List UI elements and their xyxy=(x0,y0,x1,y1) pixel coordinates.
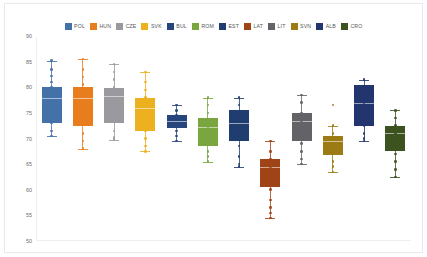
data-point xyxy=(82,83,85,86)
data-point xyxy=(300,112,303,115)
data-point xyxy=(144,96,147,99)
data-point xyxy=(394,168,397,171)
data-point xyxy=(269,165,272,168)
data-point xyxy=(144,119,147,122)
median-line xyxy=(135,108,155,109)
y-tick-label: 60 xyxy=(26,187,32,193)
data-point xyxy=(300,94,303,97)
y-tick-label: 90 xyxy=(26,33,32,39)
y-tick-label: 50 xyxy=(26,238,32,244)
data-point xyxy=(269,173,272,176)
boxplot-lat[interactable] xyxy=(255,36,286,241)
data-point xyxy=(332,132,335,135)
data-point xyxy=(300,135,303,138)
plot-area: 908580757065605550 xyxy=(36,36,411,241)
boxplot-hun[interactable] xyxy=(67,36,98,241)
data-point xyxy=(175,124,178,127)
boxplot-svn[interactable] xyxy=(317,36,348,241)
data-point xyxy=(332,142,335,145)
data-point xyxy=(332,165,335,168)
data-point xyxy=(50,112,53,115)
data-point xyxy=(207,142,210,145)
data-point xyxy=(269,212,272,215)
data-point xyxy=(207,112,210,115)
data-point xyxy=(238,155,241,158)
box-body xyxy=(354,85,374,126)
data-point xyxy=(144,89,147,92)
data-point xyxy=(394,132,397,135)
data-point xyxy=(207,96,210,99)
data-point xyxy=(82,76,85,79)
data-point xyxy=(207,150,210,153)
data-point xyxy=(269,150,272,153)
data-point xyxy=(175,109,178,112)
data-point xyxy=(113,71,116,74)
data-point xyxy=(50,68,53,71)
data-point xyxy=(175,114,178,117)
boxplot-cro[interactable] xyxy=(380,36,411,241)
data-point xyxy=(269,206,272,209)
data-point xyxy=(269,217,272,220)
data-point xyxy=(144,71,147,74)
boxplot-bul[interactable] xyxy=(161,36,192,241)
data-point xyxy=(144,137,147,140)
data-point xyxy=(394,153,397,156)
median-line xyxy=(229,123,249,124)
data-point xyxy=(300,158,303,161)
boxplot-alb[interactable] xyxy=(349,36,380,241)
boxplot-est[interactable] xyxy=(224,36,255,241)
data-point xyxy=(300,127,303,130)
data-point xyxy=(332,104,335,107)
data-point xyxy=(82,101,85,104)
data-point xyxy=(207,127,210,130)
boxplot-rom[interactable] xyxy=(192,36,223,241)
data-point xyxy=(332,160,335,163)
boxplot-lit[interactable] xyxy=(286,36,317,241)
y-tick-label: 80 xyxy=(26,84,32,90)
data-point xyxy=(394,160,397,163)
y-tick-label: 70 xyxy=(26,136,32,142)
data-point xyxy=(113,130,116,133)
data-point xyxy=(300,142,303,145)
data-point xyxy=(144,150,147,153)
y-tick-label: 75 xyxy=(26,110,32,116)
data-point xyxy=(332,124,335,127)
y-tick-label: 85 xyxy=(26,59,32,65)
data-point xyxy=(82,140,85,143)
boxplot-figure: POLHUNCZESVKBULROMESTLATLITSVNALBCRO 908… xyxy=(0,0,427,257)
y-tick-label: 55 xyxy=(26,212,32,218)
data-point xyxy=(50,93,53,96)
boxplot-svk[interactable] xyxy=(130,36,161,241)
data-point xyxy=(207,119,210,122)
data-point xyxy=(50,75,53,78)
data-point xyxy=(269,188,272,191)
box-body xyxy=(135,98,155,131)
data-point xyxy=(207,155,210,158)
data-point xyxy=(82,68,85,71)
data-point xyxy=(207,160,210,163)
data-point xyxy=(394,176,397,179)
data-point xyxy=(144,112,147,115)
boxplot-cze[interactable] xyxy=(99,36,130,241)
boxplot-pol[interactable] xyxy=(36,36,67,241)
data-point xyxy=(363,132,366,135)
data-point xyxy=(175,135,178,138)
data-point xyxy=(50,59,53,62)
data-point xyxy=(50,86,53,89)
data-point xyxy=(50,135,53,138)
data-point xyxy=(50,130,53,133)
data-point xyxy=(332,137,335,140)
data-point xyxy=(300,119,303,122)
data-point xyxy=(394,109,397,112)
data-point xyxy=(113,78,116,81)
data-point xyxy=(269,199,272,202)
data-point xyxy=(269,158,272,161)
data-point xyxy=(300,101,303,104)
data-point xyxy=(394,137,397,140)
data-point xyxy=(394,117,397,120)
data-point xyxy=(175,130,178,133)
data-point xyxy=(144,130,147,133)
median-line xyxy=(104,96,124,97)
y-tick-label: 65 xyxy=(26,161,32,167)
data-point xyxy=(300,150,303,153)
